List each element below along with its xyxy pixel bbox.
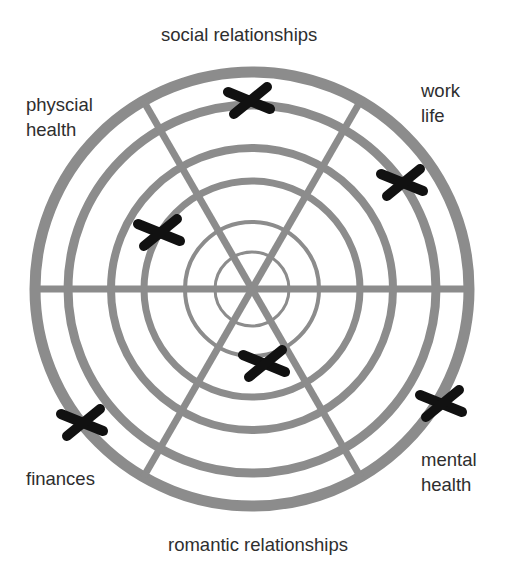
wheel-spokes [35,101,469,477]
label-work-life: work life [421,78,460,128]
x-mark-icon [381,169,423,196]
x-mark-icon [228,87,270,114]
x-mark-icon [138,219,180,246]
label-physical-health: physcial health [26,92,93,142]
label-mental-health: mental health [421,447,477,497]
label-romantic-relationships: romantic relationships [168,532,348,557]
label-finances: finances [26,466,95,491]
label-social-relationships: social relationships [161,22,317,47]
